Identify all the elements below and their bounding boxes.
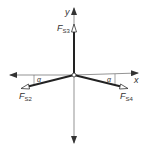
- hollow-arrow-icon: [120, 84, 129, 89]
- force-diagram: y x FS3 FS2 FS4 α α: [0, 0, 150, 150]
- x-axis-label: x: [133, 75, 139, 85]
- angle-label-right: α: [107, 76, 112, 83]
- hollow-arrow-icon: [72, 24, 77, 32]
- x-axis-right: [74, 73, 138, 75]
- label-fs4: FS4: [120, 91, 134, 102]
- force-s3: [72, 24, 77, 75]
- label-fs3: FS3: [57, 23, 71, 34]
- joint-node: [72, 73, 76, 77]
- hollow-arrow-icon: [21, 84, 30, 89]
- y-axis-label: y: [64, 7, 70, 17]
- force-s2: [21, 75, 74, 89]
- label-fs2: FS2: [19, 91, 33, 102]
- angle-label-left: α: [37, 76, 42, 83]
- force-s4: [74, 75, 128, 89]
